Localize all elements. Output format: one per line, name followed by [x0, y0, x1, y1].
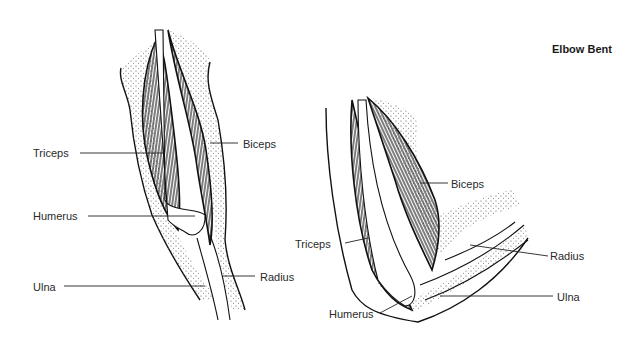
label-straight-ulna: Ulna — [33, 281, 56, 293]
label-bent-humerus: Humerus — [329, 308, 374, 320]
label-bent-biceps: Biceps — [451, 178, 484, 190]
label-bent-ulna: Ulna — [557, 291, 580, 303]
label-straight-radius: Radius — [260, 271, 294, 283]
leader-lines — [64, 143, 553, 313]
bent-arm — [326, 98, 528, 322]
diagram-title: Elbow Bent — [552, 43, 612, 55]
label-bent-radius: Radius — [550, 250, 584, 262]
label-straight-humerus: Humerus — [33, 210, 78, 222]
label-straight-biceps: Biceps — [243, 138, 276, 150]
label-bent-triceps: Triceps — [295, 238, 331, 250]
arm-anatomy-illustration — [0, 0, 619, 350]
label-straight-triceps: Triceps — [33, 147, 69, 159]
straight-arm — [120, 30, 245, 320]
